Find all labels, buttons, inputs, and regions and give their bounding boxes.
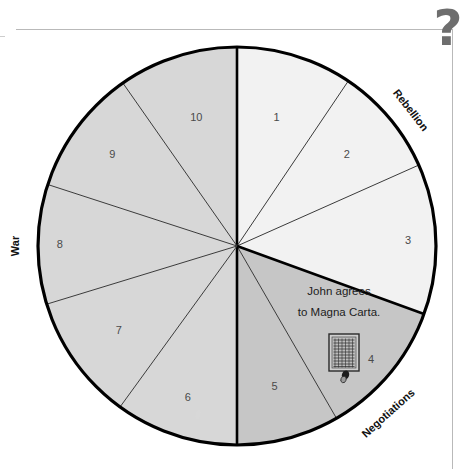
callout-line-1: John agrees (307, 285, 370, 297)
segment-number-6: 6 (185, 391, 191, 403)
segment-number-9: 9 (109, 148, 115, 160)
segment-number-5: 5 (272, 380, 278, 392)
segment-number-1: 1 (274, 111, 280, 123)
segment-number-8: 8 (57, 238, 63, 250)
segment-number-4: 4 (368, 353, 374, 365)
segment-number-7: 7 (116, 324, 122, 336)
segment-number-10: 10 (190, 111, 202, 123)
segment-number-3: 3 (405, 234, 411, 246)
callout-line-2: to Magna Carta. (298, 306, 380, 318)
segment-number-2: 2 (344, 148, 350, 160)
page-canvas: ? (0, 0, 471, 472)
phase-label-war: War (9, 236, 21, 256)
